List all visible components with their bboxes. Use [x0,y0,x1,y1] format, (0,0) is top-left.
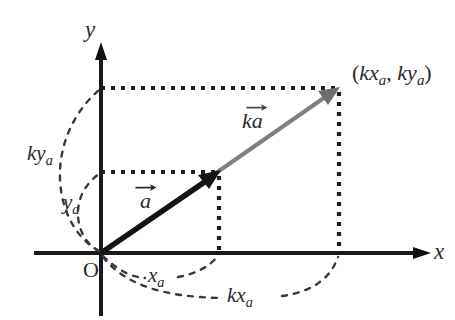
arc-y [78,174,99,251]
vector-a-label-glyph: a [140,190,151,212]
y-axis-label: y [85,18,95,41]
ky-base: y [407,60,417,85]
kx-a-prefix: k [227,283,236,307]
coordinate-comma: , [386,60,397,85]
figure-canvas [0,0,455,320]
vector-ka-label-glyph: a [252,110,263,132]
ky-a-prefix: k [27,141,36,165]
ky-a-base: y [36,141,45,165]
ky-a-subscript: a [46,152,53,168]
measure-label-y-a: ya [63,192,79,216]
vector-a-base: a [140,188,151,213]
vector-scalar-multiplication-figure: y x O a k a (kxa, [0,0,455,320]
ky-prefix: k [397,60,407,85]
kx-a-subscript: a [246,294,253,310]
vector-a [101,170,221,253]
arc-xa-right [178,256,218,277]
kx-prefix: k [359,60,369,85]
measure-label-ky-a: kya [27,143,53,167]
y-a-subscript: a [72,201,79,217]
arc-kxa-right [282,257,338,296]
kx-a-base: x [236,283,245,307]
x-a-base: x [148,263,157,287]
origin-label: O [83,259,99,281]
vector-ka-label: k a [242,110,263,132]
point-coordinate-label: (kxa, kya) [352,62,432,88]
vector-ka-prefix: k [242,108,252,133]
vector-a-label: a [140,190,151,212]
x-a-subscript: a [157,274,164,290]
measure-label-kx-a: kxa [227,285,253,309]
y-a-base: y [63,190,72,214]
measure-label-x-a: xa [148,265,164,289]
paren-close: ) [424,60,431,85]
arc-ky [60,90,99,251]
kx-base: x [369,60,379,85]
vector-ka-base: a [252,108,263,133]
x-axis-label: x [434,240,444,263]
